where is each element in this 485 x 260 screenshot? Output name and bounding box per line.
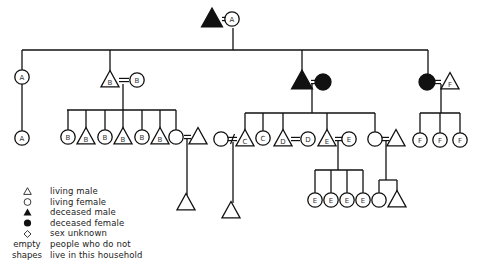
living-female-icon: E (308, 193, 322, 207)
legend-label: living male (50, 186, 98, 197)
living-male-icon: C (236, 130, 254, 146)
living-male-icon (388, 191, 406, 207)
living-male-icon: B (101, 71, 119, 87)
living-female-icon: F (413, 133, 427, 147)
triangle-filled-icon (8, 208, 46, 216)
node-label: B (84, 136, 89, 144)
circle-filled-icon (8, 219, 46, 227)
node-label: A (20, 74, 25, 82)
node-label: F (438, 137, 442, 145)
living-female-icon: B (130, 73, 144, 87)
living-female-icon: E (340, 193, 354, 207)
marriage-link (119, 78, 129, 81)
legend-label: deceased female (50, 218, 124, 229)
legend-key-text: empty (8, 239, 46, 250)
node-label: E (361, 197, 365, 205)
legend-row-deceased-female: deceased female (8, 218, 143, 229)
circle-open-icon (8, 198, 46, 206)
node-label: B (66, 134, 71, 142)
node-label: B (108, 79, 113, 87)
living-female-icon (368, 132, 382, 146)
living-female-icon (372, 193, 386, 207)
node-label: D (305, 136, 310, 144)
living-female-icon: E (324, 193, 338, 207)
living-male-icon: E (318, 130, 336, 146)
node-label: A (230, 16, 235, 24)
deceased-female-icon (315, 74, 331, 90)
legend-key-text: shapes (8, 250, 46, 260)
node-label: F (448, 81, 452, 89)
node-label: B (158, 136, 163, 144)
deceased-female-icon (419, 74, 435, 90)
node-label: E (325, 138, 329, 146)
marriage-link (382, 137, 389, 140)
living-female-icon (169, 130, 183, 144)
living-female-icon: A (225, 12, 239, 26)
legend-row-deceased-male: deceased male (8, 207, 143, 218)
living-female-icon: F (453, 133, 467, 147)
living-female-icon: E (342, 132, 356, 146)
living-female-icon: F (433, 133, 447, 147)
living-female-icon: D (301, 132, 315, 146)
deceased-male-icon (292, 70, 313, 89)
legend-label: sex unknown (50, 228, 107, 239)
legend-row-sex-unknown: sex unknown (8, 228, 143, 239)
legend-row-living-male: living male (8, 186, 143, 197)
marriage-link (184, 135, 191, 138)
legend-row-living-female: living female (8, 197, 143, 208)
marriage-links (119, 17, 441, 144)
node-label: E (345, 197, 349, 205)
legend-row-empty-shapes-2: shapes live in this household (8, 250, 143, 260)
node-label: C (243, 138, 248, 146)
living-male-icon: B (114, 128, 132, 144)
node-label: A (20, 135, 25, 143)
legend-row-empty-shapes-1: empty people who do not (8, 239, 143, 250)
triangle-open-icon (8, 187, 46, 195)
node-label: E (329, 197, 333, 205)
living-male-icon: F (441, 73, 459, 89)
legend-label: living female (50, 197, 106, 208)
diamond-open-icon (8, 230, 46, 238)
marriage-link (291, 137, 300, 140)
living-female-icon: B (61, 130, 75, 144)
node-label: C (261, 135, 266, 143)
living-male-icon: D (274, 130, 292, 146)
node-label: B (135, 77, 140, 85)
living-female-icon (214, 132, 228, 146)
node-label: E (313, 197, 317, 205)
descent-lines (22, 28, 460, 203)
living-female-icon: A (15, 70, 29, 84)
legend-label: people who do not (50, 239, 131, 250)
living-male-icon: B (151, 128, 169, 144)
node-label: E (347, 136, 351, 144)
legend-label: live in this household (50, 250, 143, 260)
node-label: F (458, 137, 462, 145)
living-male-icon (387, 130, 405, 146)
legend-label: deceased male (50, 207, 116, 218)
living-female-icon: C (256, 131, 270, 145)
living-female-icon: A (15, 131, 29, 145)
node-label: B (140, 134, 145, 142)
node-label: B (103, 134, 108, 142)
living-female-icon: E (356, 193, 370, 207)
node-label: B (121, 136, 126, 144)
deceased-male-icon (202, 8, 223, 27)
node-label: D (280, 138, 285, 146)
living-male-icon (222, 202, 240, 218)
living-male-icon (177, 194, 195, 210)
legend: living male living female deceased male … (8, 186, 143, 260)
marriage-link (335, 137, 342, 140)
living-female-icon: B (135, 130, 149, 144)
living-male-icon: B (77, 128, 95, 144)
living-male-icon (189, 128, 207, 144)
living-female-icon: B (98, 130, 112, 144)
node-label: F (418, 137, 422, 145)
